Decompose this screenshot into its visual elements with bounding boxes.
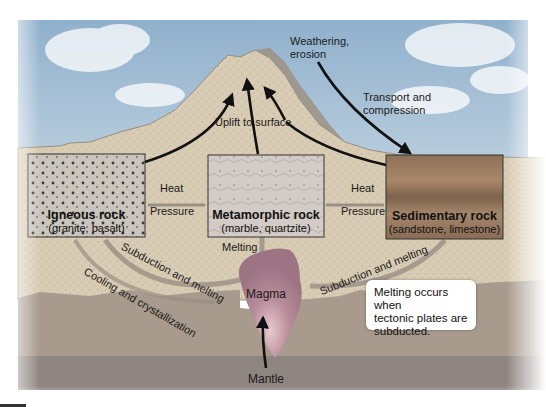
transport-label-line1: Transport and [363, 91, 431, 104]
igneous-rock-box: Igneous rock (granite, basalt) [28, 154, 145, 237]
callout-line-2: tectonic plates are [374, 312, 468, 325]
weathering-label-line2: erosion [290, 48, 326, 61]
transport-label-line2: compression [363, 104, 425, 117]
magma-label: Magma [246, 288, 286, 301]
weathering-label-line1: Weathering, [290, 35, 349, 48]
callout-line-1: Melting occurs when [374, 286, 468, 312]
metamorphic-rock-title: Metamorphic rock [208, 208, 324, 222]
sedimentary-rock-examples: (sandstone, limestone) [386, 223, 503, 235]
subduction-callout: Melting occurs when tectonic plates are … [366, 280, 476, 330]
pressure-label-right: Pressure [341, 205, 385, 218]
melting-label: Melting [222, 241, 257, 254]
pressure-label-left: Pressure [150, 205, 194, 218]
uplift-label: Uplift to surface [215, 116, 291, 129]
igneous-rock-title: Igneous rock [28, 208, 145, 222]
sedimentary-rock-box: Sedimentary rock (sandstone, limestone) [386, 155, 503, 239]
mantle-label: Mantle [248, 373, 284, 386]
igneous-rock-examples: (granite, basalt) [28, 222, 145, 234]
callout-line-3: subducted. [374, 325, 468, 338]
metamorphic-rock-box: Metamorphic rock (marble, quartzite) [208, 155, 324, 237]
metamorphic-rock-examples: (marble, quartzite) [208, 222, 324, 234]
sedimentary-rock-title: Sedimentary rock [386, 209, 503, 223]
heat-label-right: Heat [351, 182, 374, 195]
heat-label-left: Heat [160, 182, 183, 195]
